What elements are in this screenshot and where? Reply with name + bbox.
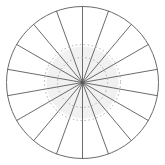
center-origin-dot (81, 81, 84, 84)
polar-plot-svg (0, 0, 165, 165)
polar-figure-container: Polar grid diagram Circular polar plot w… (0, 0, 165, 165)
center-point-group (81, 81, 84, 84)
